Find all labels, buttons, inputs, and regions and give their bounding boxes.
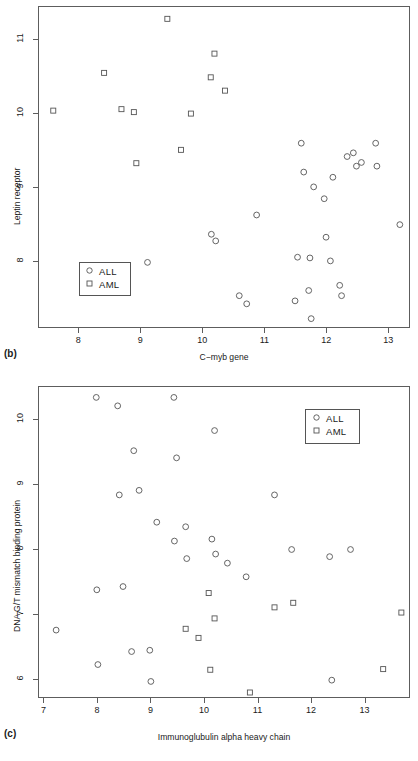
x-tick-mark [258,698,259,703]
data-point-all [136,487,142,493]
data-point-all [244,301,250,307]
x-tick-mark [97,698,98,703]
legend-label-all-b: ALL [99,266,117,277]
data-point-aml [51,108,56,113]
data-point-all [243,574,249,580]
data-point-all [172,538,178,544]
x-tick-label: 10 [187,335,217,345]
x-tick-mark [202,328,203,333]
y-tick-mark [33,484,38,485]
legend-c: ALL AML [305,409,360,444]
x-tick-label: 12 [311,335,341,345]
y-tick-mark [33,679,38,680]
x-tick-mark [78,328,79,333]
data-point-all [272,492,278,498]
y-tick-mark [33,39,38,40]
data-point-all [329,677,335,683]
x-tick-label: 8 [82,705,112,715]
y-tick-mark [33,614,38,615]
panel-c: 678910 78910111213 DNA G/T mismatch bind… [0,372,418,761]
circle-icon [83,266,95,277]
data-point-all [53,627,59,633]
data-point-all [373,140,379,146]
data-point-all [298,140,304,146]
data-point-aml [119,107,124,112]
data-point-all [129,649,135,655]
data-point-aml [206,591,211,596]
data-point-all [183,524,189,530]
y-tick-label: 10 [15,102,25,122]
x-tick-label: 11 [249,335,279,345]
data-point-aml [188,111,193,116]
data-point-aml [212,51,217,56]
x-tick-label: 7 [28,705,58,715]
data-point-all [184,556,190,562]
data-point-aml [208,75,213,80]
y-tick-mark [33,187,38,188]
x-tick-mark [204,698,205,703]
data-point-all [323,234,329,240]
data-point-all [120,584,126,590]
data-point-all [289,547,295,553]
data-point-aml [102,70,107,75]
data-point-all [94,587,100,593]
x-tick-mark [43,698,44,703]
circle-icon [310,413,322,424]
legend-label-aml-c: AML [326,426,346,437]
x-tick-mark [150,698,151,703]
data-point-all [350,150,356,156]
data-point-all [301,169,307,175]
legend-item-all-c: ALL [310,413,344,424]
data-point-all [93,395,99,401]
square-icon [83,279,95,290]
x-tick-label: 9 [135,705,165,715]
data-point-all [147,647,153,653]
y-tick-label: 8 [15,250,25,270]
x-tick-mark [311,698,312,703]
data-point-aml [196,635,201,640]
data-point-aml [131,110,136,115]
data-point-aml [212,616,217,621]
x-tick-mark [140,328,141,333]
data-point-aml [291,600,296,605]
x-tick-label: 12 [296,705,326,715]
data-point-all [292,298,298,304]
x-tick-mark [388,328,389,333]
square-icon [310,426,322,437]
data-point-all [328,258,334,264]
panel-label-c: (c) [4,728,16,739]
x-tick-label: 11 [243,705,273,715]
data-point-all [145,259,151,265]
y-axis-title-c: DNA G/T mismatch binding protein [12,500,22,632]
x-tick-label: 8 [63,335,93,345]
x-tick-label: 9 [125,335,155,345]
data-point-all [225,560,231,566]
data-point-aml [165,16,170,21]
data-point-aml [247,690,252,695]
legend-item-all-b: ALL [83,266,117,277]
x-axis-title-c: Immunoglubulin alpha heavy chain [38,732,410,742]
data-point-aml [208,667,213,672]
data-point-all [208,231,214,237]
data-point-aml [381,667,386,672]
panel-label-b: (b) [4,348,17,359]
x-tick-mark [365,698,366,703]
data-point-all [295,254,301,260]
data-point-all [116,492,122,498]
x-tick-label: 13 [373,335,403,345]
y-tick-mark [33,419,38,420]
data-point-aml [399,610,404,615]
x-tick-mark [326,328,327,333]
data-point-all [131,448,137,454]
data-point-all [307,255,313,261]
y-tick-label: 6 [15,668,25,688]
y-tick-mark [33,549,38,550]
y-axis-title-b: Leptin receptor [12,168,22,225]
data-point-all [348,547,354,553]
data-point-all [359,160,365,166]
data-point-aml [223,88,228,93]
y-tick-mark [33,261,38,262]
data-point-all [337,282,343,288]
data-point-aml [183,626,188,631]
legend-label-aml-b: AML [99,279,119,290]
